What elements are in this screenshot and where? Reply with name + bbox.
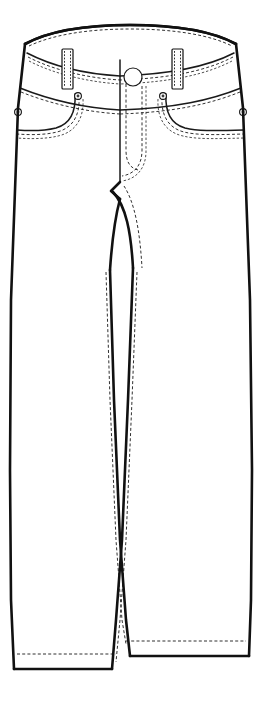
belt-loop-right bbox=[172, 49, 183, 89]
belt-loop-left bbox=[62, 49, 73, 89]
rivet-pocket-right-inner bbox=[160, 93, 167, 100]
rivet-pocket-left-inner bbox=[75, 93, 82, 100]
waist-button bbox=[124, 68, 142, 86]
illustration-canvas bbox=[0, 0, 261, 711]
jeans-technical-flat-drawing bbox=[0, 0, 261, 711]
